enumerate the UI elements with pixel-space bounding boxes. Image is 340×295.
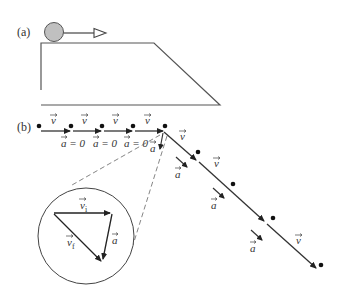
slope-accel-arrows	[176, 157, 262, 240]
vector-hats	[50, 114, 151, 117]
a-zero-label: a = 0	[124, 137, 148, 149]
v-label: v	[51, 114, 56, 126]
slope-velocity-arrows	[164, 132, 316, 268]
a-label: a	[211, 199, 217, 211]
motion-diagram: (a) (b) v v v v	[0, 0, 340, 295]
inset-circle	[38, 188, 134, 284]
diagram-svg: (a) (b) v v v v	[0, 0, 340, 295]
a-zero-label: a = 0	[61, 137, 85, 149]
table-outline	[41, 43, 220, 105]
a-label: a	[250, 242, 256, 254]
v-label: v	[214, 157, 219, 169]
launch-arrow-icon	[64, 29, 107, 38]
v-label: v	[180, 130, 185, 142]
v-label: v	[113, 114, 118, 126]
a-zero-label: a = 0	[93, 137, 117, 149]
v-label: v	[82, 114, 87, 126]
corner-accel-arrow	[160, 133, 163, 149]
panel-a-label: (a)	[17, 25, 30, 39]
a-label: a	[175, 168, 181, 180]
horizontal-v-labels: v v v v	[51, 114, 150, 126]
corner-a-label: a	[150, 142, 156, 154]
slope-a-labels: a a a	[175, 168, 256, 254]
accel-zero-labels: a = 0 a = 0 a = 0	[61, 137, 148, 149]
inset-a-label: a	[112, 234, 118, 246]
panel-b-label: (b)	[17, 120, 31, 134]
v-label: v	[296, 234, 301, 246]
v-label: v	[145, 114, 150, 126]
slope-v-labels: v v v	[180, 130, 301, 246]
slope-v-hats	[179, 130, 302, 237]
ball-icon	[45, 23, 64, 42]
